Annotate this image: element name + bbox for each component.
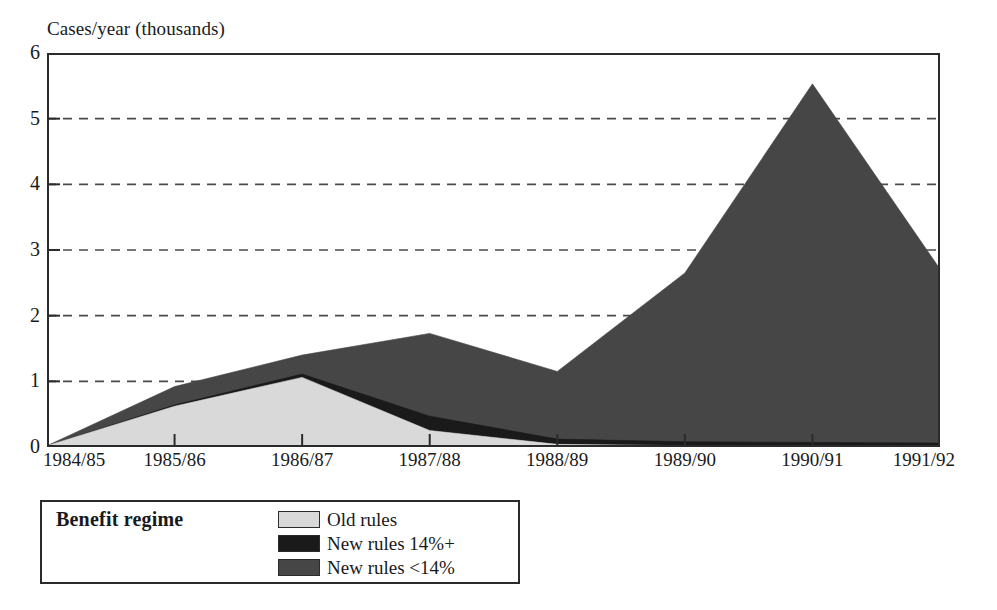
legend-swatch-new-rules-low bbox=[278, 559, 320, 576]
y-tick-4: 4 bbox=[4, 173, 40, 193]
y-tick-6: 6 bbox=[4, 42, 40, 62]
y-axis-label: Cases/year (thousands) bbox=[47, 18, 225, 40]
chart-figure: Cases/year (thousands) 0 1 2 3 4 5 6 198… bbox=[0, 0, 997, 610]
x-axis-tick-labels: 1984/85 1985/86 1986/87 1987/88 1988/89 … bbox=[0, 449, 997, 479]
y-axis-tick-labels: 0 1 2 3 4 5 6 bbox=[0, 53, 40, 447]
area-series-2 bbox=[47, 84, 940, 447]
y-tick-3: 3 bbox=[4, 239, 40, 259]
legend-entries: Old rules New rules 14%+ New rules <14% bbox=[278, 507, 455, 579]
x-tick-1989-90: 1989/90 bbox=[654, 449, 716, 471]
legend-swatch-old-rules bbox=[278, 511, 320, 528]
x-tick-1985-86: 1985/86 bbox=[143, 449, 205, 471]
legend-label-new-rules-low: New rules <14% bbox=[327, 558, 455, 577]
legend-item-old-rules: Old rules bbox=[278, 507, 455, 531]
x-tick-1990-91: 1990/91 bbox=[781, 449, 843, 471]
y-tick-1: 1 bbox=[4, 370, 40, 390]
legend-item-new-rules-low: New rules <14% bbox=[278, 555, 455, 579]
legend-title: Benefit regime bbox=[56, 508, 183, 531]
legend-label-new-rules-high: New rules 14%+ bbox=[327, 534, 455, 553]
legend: Benefit regime Old rules New rules 14%+ … bbox=[40, 500, 520, 584]
x-tick-1986-87: 1986/87 bbox=[271, 449, 333, 471]
legend-swatch-new-rules-high bbox=[278, 535, 320, 552]
y-tick-2: 2 bbox=[4, 305, 40, 325]
x-tick-1991-92: 1991/92 bbox=[893, 449, 955, 471]
legend-item-new-rules-high: New rules 14%+ bbox=[278, 531, 455, 555]
stacked-area-plot bbox=[47, 53, 940, 447]
y-tick-5: 5 bbox=[4, 108, 40, 128]
x-tick-1987-88: 1987/88 bbox=[399, 449, 461, 471]
plot-area bbox=[47, 53, 940, 447]
legend-label-old-rules: Old rules bbox=[327, 510, 397, 529]
x-tick-1988-89: 1988/89 bbox=[526, 449, 588, 471]
x-tick-1984-85: 1984/85 bbox=[43, 449, 105, 471]
